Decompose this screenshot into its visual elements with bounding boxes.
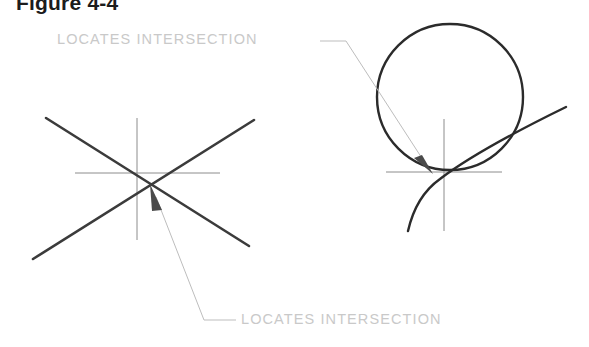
right-diagram-group: [377, 24, 566, 231]
left-descending-diagonal: [46, 118, 249, 246]
left-ascending-diagonal: [33, 120, 254, 259]
top-leader-line: [320, 41, 427, 166]
top-leader-group: [320, 41, 433, 174]
circle-outline: [377, 24, 523, 170]
sweeping-arc: [408, 107, 566, 231]
bottom-callout-label: LOCATES INTERSECTION: [241, 311, 442, 327]
top-callout-label: LOCATES INTERSECTION: [57, 31, 258, 47]
technical-drawing-canvas: [0, 0, 589, 347]
bottom-leader-line: [156, 197, 236, 320]
top-leader-arrowhead: [414, 155, 433, 174]
figure-page: Figure 4-4: [0, 0, 589, 347]
left-diagram-group: [33, 118, 254, 259]
bottom-leader-group: [150, 184, 236, 320]
